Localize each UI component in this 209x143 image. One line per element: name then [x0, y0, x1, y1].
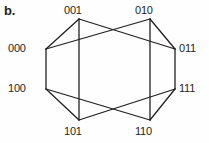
- edge-101-111: [79, 89, 175, 120]
- node-label-011: 011: [179, 43, 196, 54]
- edge-group: [46, 19, 175, 120]
- edge-001-011: [79, 19, 175, 49]
- figure-container: b. 000 001 010 011 100 111 101 110: [0, 0, 209, 143]
- node-label-111: 111: [179, 83, 195, 94]
- node-label-001: 001: [64, 5, 82, 16]
- node-label-110: 110: [135, 126, 152, 137]
- node-label-000: 000: [8, 43, 26, 54]
- node-label-101: 101: [64, 126, 82, 137]
- hypercube-graph-svg: [0, 0, 209, 143]
- node-label-010: 010: [135, 5, 153, 16]
- node-label-100: 100: [8, 83, 26, 94]
